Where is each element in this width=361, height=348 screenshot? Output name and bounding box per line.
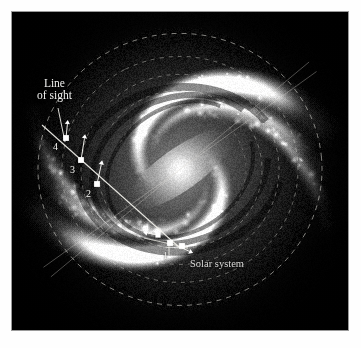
galaxy-image-plate: Lineof sight Solar system 4 3 2 1	[11, 11, 349, 331]
figure-root: Lineof sight Solar system 4 3 2 1	[0, 0, 361, 348]
galaxy-image	[12, 12, 348, 330]
marker-label-3: 3	[70, 164, 75, 175]
line-of-sight-label-row1: Line	[44, 77, 65, 89]
line-of-sight-label-row2: of sight	[37, 89, 72, 101]
line-of-sight-label: Lineof sight	[37, 78, 72, 101]
marker-label-2: 2	[86, 188, 91, 199]
solar-system-label: Solar system	[190, 259, 244, 270]
marker-label-4: 4	[53, 141, 58, 152]
marker-label-1: 1	[163, 250, 168, 261]
